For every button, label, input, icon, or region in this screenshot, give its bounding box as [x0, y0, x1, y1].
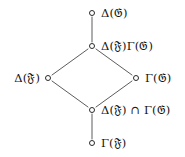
lattice-node-label-upper-middle: Δ(𝔉)Γ(𝔊) — [101, 40, 153, 53]
lattice-node-label-lower-middle: Δ(𝔉) ∩ Γ(𝔊) — [101, 104, 170, 117]
lattice-node-upper-middle — [89, 43, 95, 49]
lattice-node-lower-middle — [89, 107, 95, 113]
lattice-node-label-top: Δ(𝔊) — [101, 7, 128, 20]
lattice-node-label-right: Γ(𝔊) — [145, 72, 171, 85]
lattice-node-label-bottom: Γ(𝔉) — [101, 137, 126, 150]
lattice-node-label-left: Δ(𝔉) — [14, 72, 40, 85]
hasse-diagram-figure: Δ(𝔊)Δ(𝔉)Γ(𝔊)Δ(𝔉)Γ(𝔊)Δ(𝔉) ∩ Γ(𝔊)Γ(𝔉) — [0, 0, 185, 157]
lattice-edge-upper-middle-to-left — [52, 49, 88, 75]
lattice-node-bottom — [89, 140, 95, 146]
lattice-edge-upper-middle-to-right — [96, 49, 132, 75]
lattice-edge-left-to-lower-middle — [52, 81, 88, 107]
lattice-node-right — [133, 75, 139, 81]
lattice-node-top — [89, 10, 95, 16]
lattice-node-left — [45, 75, 51, 81]
